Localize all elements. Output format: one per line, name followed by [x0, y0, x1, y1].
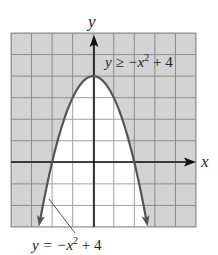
inequality-label: y ≥ −x2 + 4 — [103, 52, 173, 70]
inequality-lhs: y ≥ −x — [103, 54, 145, 70]
inequality-graph: y x y ≥ −x2 + 4 y = −x2 + 4 — [0, 0, 218, 255]
inequality-rhs: + 4 — [149, 54, 173, 70]
y-axis-label: y — [86, 12, 96, 31]
curve-equation-label: y = −x2 + 4 — [30, 235, 102, 253]
equation-rhs: + 4 — [78, 237, 102, 253]
x-axis-label: x — [200, 152, 209, 171]
equation-lhs: y = −x — [30, 237, 73, 253]
